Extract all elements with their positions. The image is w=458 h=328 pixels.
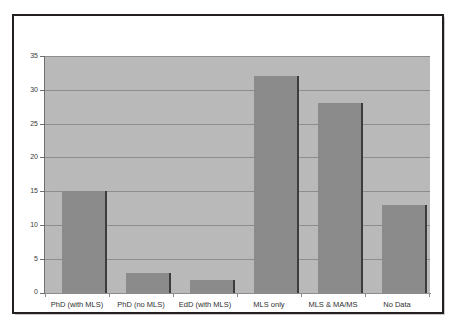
- bar-mls-and-ma-ms: [318, 103, 363, 293]
- y-tick-mark-25: [40, 124, 45, 125]
- y-tick-label-25: 25: [4, 120, 38, 128]
- gridline-25: [45, 124, 430, 125]
- x-tick-mark-4: [301, 293, 302, 297]
- y-tick-mark-10: [40, 225, 45, 226]
- y-axis-tick-labels: 35 30 25 20 15 10 5 0: [0, 0, 38, 328]
- y-tick-mark-35: [40, 56, 45, 57]
- y-tick-mark-15: [40, 191, 45, 192]
- x-axis-label-no-data: No Data: [365, 300, 429, 309]
- bar-chart-figure: 35 30 25 20 15 10 5 0 PhD (with MLS) PhD…: [0, 0, 458, 328]
- plot-area: [45, 56, 430, 293]
- y-tick-label-5: 5: [4, 255, 38, 263]
- gridline-20: [45, 157, 430, 158]
- gridline-30: [45, 90, 430, 91]
- x-axis-label-mls-only: MLS only: [237, 300, 301, 309]
- y-tick-label-15: 15: [4, 187, 38, 195]
- y-tick-label-0: 0: [4, 288, 38, 296]
- bar-mls-only: [254, 76, 299, 293]
- x-tick-mark-5: [365, 293, 366, 297]
- gridline-35: [45, 56, 430, 57]
- x-axis-label-phd-with-mls: PhD (with MLS): [45, 300, 109, 309]
- y-tick-label-20: 20: [4, 153, 38, 161]
- y-tick-mark-5: [40, 259, 45, 260]
- bar-phd-with-mls: [62, 191, 107, 293]
- x-axis-label-mls-and-ma-ms: MLS & MA/MS: [301, 300, 365, 309]
- bar-no-data: [382, 205, 427, 293]
- y-tick-label-10: 10: [4, 221, 38, 229]
- x-axis-label-phd-no-mls: PhD (no MLS): [109, 300, 173, 309]
- y-tick-mark-20: [40, 157, 45, 158]
- y-tick-mark-30: [40, 90, 45, 91]
- x-tick-mark-6: [429, 293, 430, 297]
- x-tick-mark-1: [109, 293, 110, 297]
- bar-edd-with-mls: [190, 280, 235, 294]
- bar-phd-no-mls: [126, 273, 171, 293]
- x-tick-mark-2: [173, 293, 174, 297]
- x-tick-mark-3: [237, 293, 238, 297]
- y-tick-label-30: 30: [4, 86, 38, 94]
- x-tick-mark-0: [45, 293, 46, 297]
- y-tick-label-35: 35: [4, 52, 38, 60]
- x-axis-label-edd-with-mls: EdD (with MLS): [173, 300, 237, 309]
